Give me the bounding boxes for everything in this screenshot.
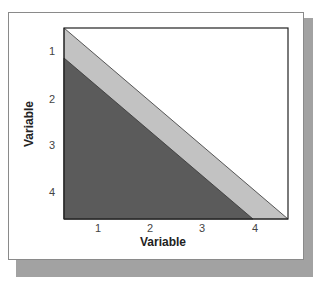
- y-axis-label: Variable: [22, 101, 36, 147]
- x-axis-label: Variable: [140, 235, 186, 249]
- x-tick-1: 1: [95, 222, 101, 234]
- x-tick-4: 4: [252, 222, 258, 234]
- y-tick-2: 2: [49, 93, 55, 105]
- y-tick-1: 1: [49, 45, 55, 57]
- x-tick-2: 2: [147, 222, 153, 234]
- y-tick-4: 4: [49, 186, 55, 198]
- dark-triangle: [64, 58, 253, 219]
- y-tick-3: 3: [49, 139, 55, 151]
- x-tick-3: 3: [199, 222, 205, 234]
